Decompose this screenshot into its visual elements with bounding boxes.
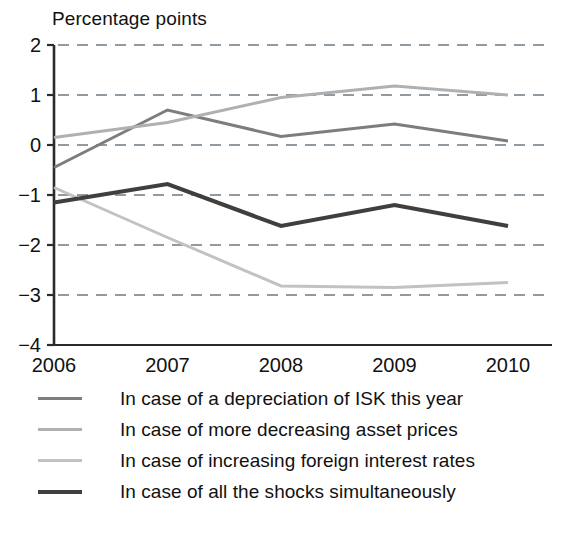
y-tick-label: −3 [18,284,41,306]
legend-swatch-cell [0,397,120,400]
series-line-3 [54,188,508,288]
y-tick-label: 2 [30,34,41,56]
legend-item[interactable]: In case of increasing foreign interest r… [0,445,572,476]
x-tick-label: 2006 [32,354,77,376]
x-tick-label: 2008 [259,354,304,376]
y-tick-label: 0 [30,134,41,156]
legend-line-icon [38,459,82,462]
legend-line-icon [38,490,82,494]
chart-legend: In case of a depreciation of ISK this ye… [0,383,572,507]
legend-swatch-cell [0,490,120,494]
legend-item-label: In case of more decreasing asset prices [120,419,458,441]
series-line-1 [54,110,508,168]
legend-item-label: In case of all the shocks simultaneously [120,481,456,503]
y-tick-label: −2 [18,234,41,256]
data-series [54,86,508,288]
legend-line-icon [38,397,82,400]
legend-item-label: In case of a depreciation of ISK this ye… [120,388,463,410]
x-tick-label: 2010 [486,354,531,376]
legend-swatch-cell [0,428,120,431]
legend-item[interactable]: In case of more decreasing asset prices [0,414,572,445]
x-tick-label: 2007 [145,354,190,376]
gridlines [58,45,552,295]
legend-item[interactable]: In case of a depreciation of ISK this ye… [0,383,572,414]
x-tick-labels: 20062007200820092010 [32,354,531,376]
legend-line-icon [38,428,82,431]
legend-item[interactable]: In case of all the shocks simultaneously [0,476,572,507]
chart-figure: Percentage points 210−1−2−3−4 2006200720… [0,0,572,535]
x-tick-label: 2009 [372,354,417,376]
series-line-4 [54,184,508,226]
legend-swatch-cell [0,459,120,462]
y-tick-label: −1 [18,184,41,206]
y-tick-label: 1 [30,84,41,106]
legend-item-label: In case of increasing foreign interest r… [120,450,475,472]
line-chart-plot: 210−1−2−3−4 20062007200820092010 [0,0,572,383]
y-tick-label: −4 [18,334,41,356]
y-tick-labels: 210−1−2−3−4 [18,34,41,356]
